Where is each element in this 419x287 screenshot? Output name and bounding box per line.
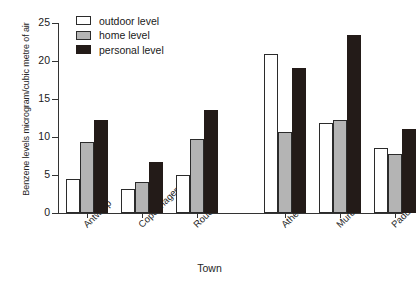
bar-copenhagen-home [135, 182, 149, 213]
bar-athens-home [278, 132, 292, 213]
bar-antwerp-home [80, 142, 94, 213]
bar-group-copenhagen [121, 23, 163, 213]
bar-murcia-outdoor [319, 123, 333, 213]
y-tick-label-25: 25 [10, 16, 50, 28]
bar-group-antwerp [66, 23, 108, 213]
bar-murcia-personal [347, 35, 361, 213]
bar-copenhagen-outdoor [121, 189, 135, 213]
benzene-levels-bar-chart: Benzene levels microgram/cubic metre of … [0, 0, 419, 287]
bar-padua-personal [402, 129, 416, 213]
bar-antwerp-outdoor [66, 179, 80, 213]
bar-group-athens [264, 23, 306, 213]
bar-group-murcia [319, 23, 361, 213]
bar-murcia-home [333, 120, 347, 213]
bar-rouen-outdoor [176, 175, 190, 213]
bar-athens-outdoor [264, 54, 278, 213]
bar-rouen-home [190, 139, 204, 213]
y-tick-0 [52, 213, 58, 214]
x-axis-title: Town [0, 262, 419, 274]
y-tick-label-0: 0 [10, 206, 50, 218]
bar-rouen-personal [204, 110, 218, 213]
bar-copenhagen-personal [149, 162, 163, 213]
bar-antwerp-personal [94, 120, 108, 213]
bar-padua-home [388, 154, 402, 213]
y-axis-title: Benzene levels microgram/cubic metre of … [21, 0, 31, 219]
bar-group-padua [374, 23, 416, 213]
y-tick-label-10: 10 [10, 130, 50, 142]
bar-group-rouen [176, 23, 218, 213]
plot-area [58, 23, 402, 213]
y-tick-label-15: 15 [10, 92, 50, 104]
y-tick-label-20: 20 [10, 54, 50, 66]
y-tick-label-5: 5 [10, 168, 50, 180]
bar-athens-personal [292, 68, 306, 213]
bar-padua-outdoor [374, 148, 388, 213]
